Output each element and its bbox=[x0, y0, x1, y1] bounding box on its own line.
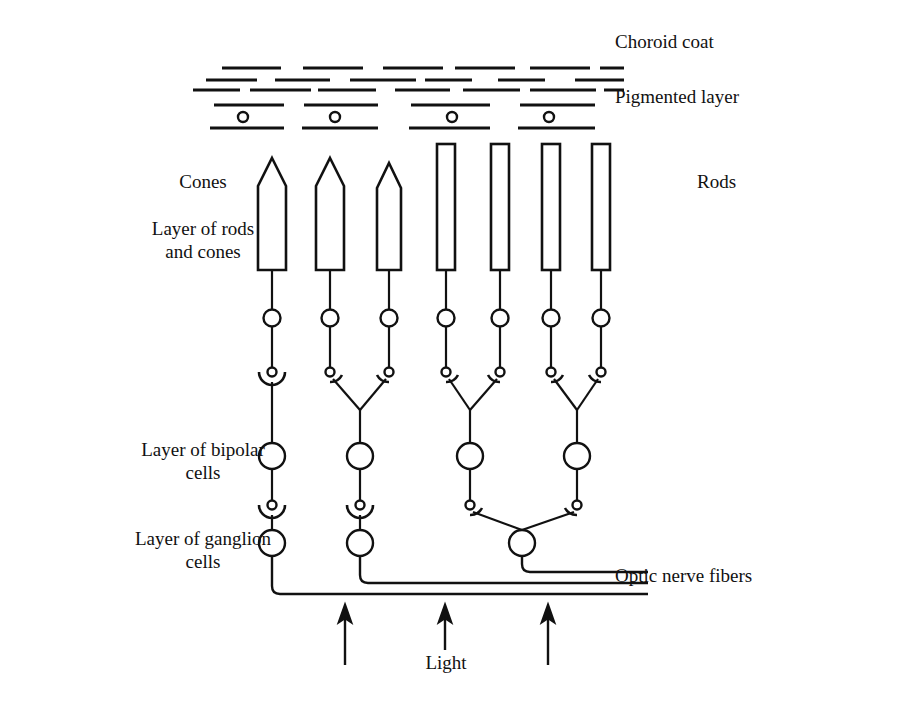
bipolar-terminal bbox=[268, 501, 277, 510]
label-rods: Rods bbox=[697, 171, 736, 192]
rod-cell bbox=[592, 144, 610, 270]
label-light: Light bbox=[425, 652, 467, 673]
rod-cell bbox=[437, 144, 455, 270]
light-arrow-icon bbox=[339, 605, 351, 665]
pigmented-layer-group bbox=[210, 105, 595, 128]
retina-diagram: Choroid coat Pigmented layer Rods Optic … bbox=[0, 0, 924, 705]
optic-nerve-fiber bbox=[272, 556, 648, 594]
photoreceptor-nucleus bbox=[322, 310, 339, 327]
ganglion-cell bbox=[347, 530, 373, 556]
choroid-coat-group bbox=[193, 68, 624, 90]
label-choroid-coat: Choroid coat bbox=[615, 31, 714, 52]
photoreceptor-terminal bbox=[268, 368, 277, 377]
photoreceptor-terminal bbox=[385, 368, 394, 377]
label-cones: Cones bbox=[179, 171, 227, 192]
label-optic-nerve-fibers: Optic nerve fibers bbox=[615, 565, 752, 586]
bipolar-terminal bbox=[466, 501, 475, 510]
photoreceptor-terminal bbox=[442, 368, 451, 377]
ganglion-cell-group bbox=[259, 530, 648, 594]
photoreceptor-terminal bbox=[597, 368, 606, 377]
cone-cell bbox=[316, 158, 344, 270]
optic-nerve-fiber bbox=[360, 556, 648, 583]
label-layer-rods-cones-line2: and cones bbox=[165, 241, 240, 262]
light-arrow-icon bbox=[439, 605, 451, 650]
cone-cell bbox=[258, 158, 286, 270]
bipolar-cell bbox=[347, 443, 373, 469]
cone-cell bbox=[377, 163, 401, 270]
label-pigmented-layer: Pigmented layer bbox=[615, 86, 740, 107]
photoreceptor-nucleus bbox=[543, 310, 560, 327]
rod-group bbox=[437, 144, 610, 270]
label-layer-rods-cones-line1: Layer of rods bbox=[152, 218, 254, 239]
label-layer-ganglion-line2: cells bbox=[186, 551, 221, 572]
bipolar-cell bbox=[564, 443, 590, 469]
cone-group bbox=[258, 158, 401, 270]
photoreceptor-nuclei-group bbox=[259, 270, 610, 443]
ganglion-cell bbox=[509, 530, 535, 556]
label-layer-ganglion-line1: Layer of ganglion bbox=[135, 528, 272, 549]
photoreceptor-terminal bbox=[496, 368, 505, 377]
bipolar-terminal bbox=[573, 501, 582, 510]
rod-cell bbox=[491, 144, 509, 270]
photoreceptor-nucleus bbox=[264, 310, 281, 327]
light-arrow-icon bbox=[542, 605, 554, 665]
label-layer-bipolar-line1: Layer of bipolar bbox=[141, 439, 265, 460]
bipolar-cell-group bbox=[259, 443, 590, 530]
retina-diagram-canvas: Choroid coat Pigmented layer Rods Optic … bbox=[0, 0, 924, 705]
photoreceptor-terminal bbox=[547, 368, 556, 377]
photoreceptor-nucleus bbox=[492, 310, 509, 327]
bipolar-cell bbox=[457, 443, 483, 469]
photoreceptor-terminal bbox=[326, 368, 335, 377]
rod-cell bbox=[542, 144, 560, 270]
photoreceptor-nucleus bbox=[438, 310, 455, 327]
label-layer-bipolar-line2: cells bbox=[186, 462, 221, 483]
photoreceptor-nucleus bbox=[593, 310, 610, 327]
bipolar-terminal bbox=[356, 501, 365, 510]
photoreceptor-nucleus bbox=[381, 310, 398, 327]
